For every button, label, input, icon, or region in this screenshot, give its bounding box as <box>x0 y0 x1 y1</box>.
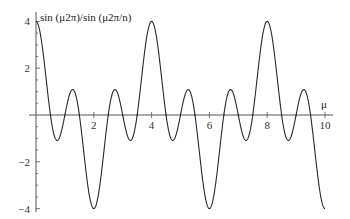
x-tick-label: 6 <box>207 119 213 131</box>
data-curve <box>36 21 325 208</box>
x-axis-label: μ <box>321 98 327 110</box>
chart: 246810−4−224 sin (μ2π)/sin (μ2π/n) μ <box>0 0 350 219</box>
x-tick-label: 2 <box>91 119 97 131</box>
y-axis-label: sin (μ2π)/sin (μ2π/n) <box>40 11 132 24</box>
y-tick-label: −4 <box>18 203 30 215</box>
x-tick-label: 10 <box>320 119 332 131</box>
x-tick-label: 8 <box>264 119 270 131</box>
y-tick-label: 4 <box>25 15 31 27</box>
x-tick-label: 4 <box>149 119 155 131</box>
y-tick-label: −2 <box>18 156 30 168</box>
y-tick-label: 2 <box>25 62 31 74</box>
